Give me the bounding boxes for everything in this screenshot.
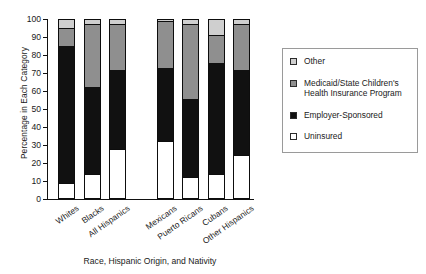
plot-inner: 0102030405060708090100 WhitesBlacksAll H…	[47, 19, 253, 199]
bar-segment-other	[157, 19, 174, 21]
bar-segment-other	[109, 19, 126, 24]
legend-swatch-other-icon	[290, 58, 297, 65]
bar-segment-uninsured	[84, 174, 101, 199]
bar-segment-employer-sponsored	[208, 63, 225, 174]
y-axis-tick-label: 100	[27, 15, 41, 24]
bar-segment-medicaid-state-children-s-health-insurance-program	[157, 21, 174, 68]
bar-puerto-ricans[interactable]	[182, 19, 199, 199]
bar-all-hispanics[interactable]	[109, 19, 126, 199]
bar-other-hispanics[interactable]	[233, 19, 250, 199]
bar-segment-medicaid-state-children-s-health-insurance-program	[182, 24, 199, 99]
bar-segment-other	[233, 19, 250, 24]
bar-segment-uninsured	[157, 141, 174, 199]
legend-label: Medicaid/State Children's Health Insuran…	[304, 78, 410, 99]
bar-segment-employer-sponsored	[109, 70, 126, 148]
y-axis-tick-label: 70	[31, 69, 41, 78]
x-axis-label-whites: Whites	[53, 203, 80, 226]
bar-segment-employer-sponsored	[233, 70, 250, 155]
bar-segment-employer-sponsored	[157, 68, 174, 142]
legend-item-uninsured[interactable]: Uninsured	[290, 131, 410, 142]
bar-segment-uninsured	[58, 183, 75, 199]
bar-segment-medicaid-state-children-s-health-insurance-program	[208, 35, 225, 63]
y-axis-tick-label: 30	[31, 141, 41, 150]
y-axis-tick	[43, 55, 47, 56]
bar-segment-other	[182, 19, 199, 24]
y-axis-title: Percentage in Each Category	[19, 8, 29, 198]
bar-blacks[interactable]	[84, 19, 101, 199]
y-axis-tick	[43, 199, 47, 200]
y-axis-tick	[43, 181, 47, 182]
y-axis-tick-label: 60	[31, 87, 41, 96]
bar-segment-employer-sponsored	[182, 99, 199, 177]
legend-item-medicaid[interactable]: Medicaid/State Children's Health Insuran…	[290, 78, 410, 99]
bar-whites[interactable]	[58, 19, 75, 199]
bar-cubans[interactable]	[208, 19, 225, 199]
bar-segment-medicaid-state-children-s-health-insurance-program	[109, 24, 126, 71]
bar-segment-uninsured	[182, 177, 199, 199]
legend-item-other[interactable]: Other	[290, 56, 410, 67]
bar-segment-uninsured	[109, 149, 126, 199]
legend-swatch-employer-icon	[290, 112, 297, 119]
y-axis-tick-label: 80	[31, 51, 41, 60]
y-axis-tick	[43, 73, 47, 74]
y-axis-tick-label: 50	[31, 105, 41, 114]
chart-figure: Percentage in Each Category 010203040506…	[0, 0, 426, 274]
legend-label: Employer-Sponsored	[304, 110, 383, 121]
chart-legend: OtherMedicaid/State Children's Health In…	[282, 48, 418, 153]
bar-segment-uninsured	[233, 155, 250, 199]
x-axis-title: Race, Hispanic Origin, and Nativity	[0, 256, 300, 266]
y-axis-line	[47, 19, 48, 200]
y-axis-tick-label: 10	[31, 177, 41, 186]
plot-area: 0102030405060708090100 WhitesBlacksAll H…	[47, 19, 253, 199]
legend-swatch-medicaid-icon	[290, 80, 297, 87]
bar-segment-other	[58, 19, 75, 28]
legend-label: Other	[304, 56, 325, 67]
y-axis-tick-label: 40	[31, 123, 41, 132]
y-axis-tick	[43, 145, 47, 146]
y-axis-tick	[43, 127, 47, 128]
y-axis-tick	[43, 109, 47, 110]
legend-swatch-uninsured-icon	[290, 133, 297, 140]
bar-mexicans[interactable]	[157, 19, 174, 199]
bar-segment-employer-sponsored	[84, 87, 101, 174]
y-axis-tick	[43, 91, 47, 92]
bar-segment-medicaid-state-children-s-health-insurance-program	[233, 24, 250, 71]
y-axis-tick-label: 90	[31, 33, 41, 42]
legend-label: Uninsured	[304, 131, 342, 142]
bar-segment-employer-sponsored	[58, 46, 75, 183]
bar-segment-uninsured	[208, 174, 225, 199]
legend-item-employer[interactable]: Employer-Sponsored	[290, 110, 410, 121]
bar-segment-medicaid-state-children-s-health-insurance-program	[58, 28, 75, 46]
y-axis-tick-label: 0	[36, 195, 41, 204]
bar-segment-other	[208, 19, 225, 35]
y-axis-tick	[43, 37, 47, 38]
x-axis-line	[47, 199, 254, 200]
y-axis-tick	[43, 163, 47, 164]
bar-segment-medicaid-state-children-s-health-insurance-program	[84, 24, 101, 86]
y-axis-tick	[43, 19, 47, 20]
bar-segment-other	[84, 19, 101, 24]
y-axis-tick-label: 20	[31, 159, 41, 168]
